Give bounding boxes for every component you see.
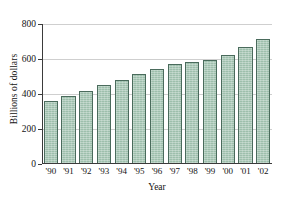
bar [203,60,217,164]
x-tick-label: '00 [219,166,237,176]
bar [97,85,111,164]
x-tick-label: '99 [201,166,219,176]
bar [115,80,129,164]
x-axis-line [42,163,272,164]
bar [44,101,58,164]
y-tick-label: 200 [22,124,36,134]
x-tick-label: '93 [95,166,113,176]
bar [61,96,75,164]
x-axis-title: Year [42,182,272,192]
bar [168,64,182,164]
bar [132,74,146,164]
y-tick-label: 600 [22,54,36,64]
bar [185,62,199,164]
x-tick-label: '91 [60,166,78,176]
x-tick-label: '02 [254,166,272,176]
y-axis-line [42,24,43,164]
x-tick-label: '96 [148,166,166,176]
x-tick-label: '90 [42,166,60,176]
y-tick-mark [38,164,42,165]
bar [238,47,252,164]
plot-area: 0200400600800 [42,24,272,164]
x-tick-label: '98 [184,166,202,176]
x-tick-label: '97 [166,166,184,176]
bar [256,39,270,164]
x-tick-label: '95 [130,166,148,176]
y-tick-label: 800 [22,19,36,29]
y-tick-label: 0 [31,159,36,169]
bar [79,91,93,165]
x-tick-label: '94 [113,166,131,176]
y-axis-title: Billions of dollars [9,29,19,149]
x-tick-label: '01 [237,166,255,176]
bar [150,69,164,164]
bar [221,55,235,164]
x-tick-label: '92 [77,166,95,176]
x-axis-ticks: '90'91'92'93'94'95'96'97'98'99'00'01'02 [42,166,272,180]
bar-chart-figure: Billions of dollars 0200400600800 '90'91… [0,0,284,200]
bars-layer [42,24,272,164]
y-tick-label: 400 [22,89,36,99]
